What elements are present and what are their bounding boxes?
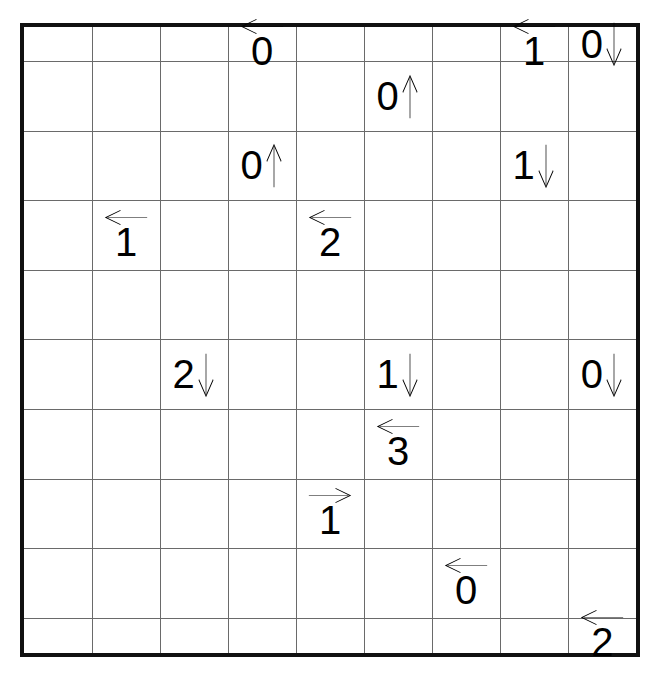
clue-number: 0 bbox=[240, 146, 262, 185]
grid-cell-empty[interactable] bbox=[24, 410, 92, 480]
grid-cell-empty[interactable] bbox=[500, 479, 568, 549]
grid-cell-clue[interactable]: 1 bbox=[92, 201, 160, 271]
grid-cell-empty[interactable] bbox=[364, 618, 432, 653]
grid-cell-empty[interactable] bbox=[296, 62, 364, 132]
grid-cell-empty[interactable] bbox=[160, 201, 228, 271]
grid-cell-clue[interactable]: 0 bbox=[228, 27, 296, 62]
grid-cell-empty[interactable] bbox=[568, 201, 636, 271]
grid-cell-empty[interactable] bbox=[160, 131, 228, 201]
grid-cell-empty[interactable] bbox=[432, 618, 500, 653]
grid-cell-empty[interactable] bbox=[500, 618, 568, 653]
grid-cell-empty[interactable] bbox=[92, 410, 160, 480]
grid-cell-empty[interactable] bbox=[24, 549, 92, 619]
grid-cell-empty[interactable] bbox=[364, 549, 432, 619]
grid-cell-empty[interactable] bbox=[500, 549, 568, 619]
grid-cell-clue[interactable]: 0 bbox=[228, 131, 296, 201]
grid-cell-clue[interactable]: 0 bbox=[364, 62, 432, 132]
grid-cell-empty[interactable] bbox=[160, 410, 228, 480]
grid-cell-empty[interactable] bbox=[228, 549, 296, 619]
grid-cell-empty[interactable] bbox=[92, 618, 160, 653]
grid-cell-clue[interactable]: 2 bbox=[160, 340, 228, 410]
grid-cell-empty[interactable] bbox=[160, 618, 228, 653]
grid-cell-empty[interactable] bbox=[296, 549, 364, 619]
grid-cell-empty[interactable] bbox=[228, 479, 296, 549]
grid-cell-empty[interactable] bbox=[364, 479, 432, 549]
grid-cell-empty[interactable] bbox=[568, 410, 636, 480]
arrow-down-icon bbox=[604, 21, 624, 67]
clue-number: 1 bbox=[512, 146, 534, 185]
grid-cell-empty[interactable] bbox=[432, 27, 500, 62]
grid-cell-empty[interactable] bbox=[24, 618, 92, 653]
grid-cell-empty[interactable] bbox=[568, 270, 636, 340]
grid-cell-clue[interactable]: 1 bbox=[500, 131, 568, 201]
grid-cell-empty[interactable] bbox=[296, 27, 364, 62]
grid-cell-empty[interactable] bbox=[24, 131, 92, 201]
grid-cell-empty[interactable] bbox=[92, 270, 160, 340]
arrow-left-icon bbox=[443, 557, 489, 574]
grid-cell-empty[interactable] bbox=[432, 131, 500, 201]
clue: 1 bbox=[512, 143, 555, 189]
clue: 0 bbox=[443, 557, 489, 610]
grid-cell-empty[interactable] bbox=[92, 549, 160, 619]
grid-cell-empty[interactable] bbox=[24, 27, 92, 62]
grid-cell-empty[interactable] bbox=[92, 340, 160, 410]
grid-cell-empty[interactable] bbox=[364, 131, 432, 201]
arrow-down-icon bbox=[604, 352, 624, 398]
clue: 0 bbox=[581, 21, 624, 67]
grid-cell-empty[interactable] bbox=[296, 410, 364, 480]
grid-cell-empty[interactable] bbox=[432, 270, 500, 340]
grid-cell-empty[interactable] bbox=[24, 201, 92, 271]
grid-cell-empty[interactable] bbox=[92, 479, 160, 549]
grid-cell-empty[interactable] bbox=[500, 201, 568, 271]
grid-cell-empty[interactable] bbox=[432, 62, 500, 132]
grid-cell-empty[interactable] bbox=[92, 131, 160, 201]
grid-cell-empty[interactable] bbox=[228, 618, 296, 653]
grid-cell-clue[interactable]: 1 bbox=[500, 27, 568, 62]
grid-cell-empty[interactable] bbox=[296, 131, 364, 201]
grid-cell-empty[interactable] bbox=[500, 62, 568, 132]
grid-cell-empty[interactable] bbox=[92, 27, 160, 62]
grid-cell-empty[interactable] bbox=[364, 27, 432, 62]
grid-cell-empty[interactable] bbox=[160, 549, 228, 619]
grid-cell-empty[interactable] bbox=[228, 201, 296, 271]
grid-cell-empty[interactable] bbox=[24, 62, 92, 132]
grid-cell-empty[interactable] bbox=[228, 270, 296, 340]
grid-cell-empty[interactable] bbox=[160, 479, 228, 549]
grid-row: 010 bbox=[24, 27, 636, 62]
grid-cell-empty[interactable] bbox=[296, 270, 364, 340]
grid-cell-empty[interactable] bbox=[432, 479, 500, 549]
grid-cell-empty[interactable] bbox=[432, 340, 500, 410]
grid-cell-empty[interactable] bbox=[228, 410, 296, 480]
grid-cell-empty[interactable] bbox=[228, 62, 296, 132]
grid-cell-clue[interactable]: 2 bbox=[296, 201, 364, 271]
grid-cell-empty[interactable] bbox=[24, 270, 92, 340]
grid-cell-clue[interactable]: 2 bbox=[568, 618, 636, 653]
grid-cell-empty[interactable] bbox=[92, 62, 160, 132]
grid-cell-empty[interactable] bbox=[500, 270, 568, 340]
grid-cell-empty[interactable] bbox=[568, 131, 636, 201]
grid-cell-empty[interactable] bbox=[432, 201, 500, 271]
grid-cell-empty[interactable] bbox=[24, 479, 92, 549]
grid-cell-empty[interactable] bbox=[432, 410, 500, 480]
grid-cell-empty[interactable] bbox=[160, 62, 228, 132]
grid-cell-empty[interactable] bbox=[568, 62, 636, 132]
grid-cell-clue[interactable]: 1 bbox=[296, 479, 364, 549]
grid-cell-empty[interactable] bbox=[364, 201, 432, 271]
grid-cell-clue[interactable]: 0 bbox=[568, 27, 636, 62]
grid-cell-empty[interactable] bbox=[228, 340, 296, 410]
grid-cell-empty[interactable] bbox=[568, 549, 636, 619]
grid-cell-clue[interactable]: 0 bbox=[568, 340, 636, 410]
grid-cell-empty[interactable] bbox=[500, 340, 568, 410]
grid-cell-clue[interactable]: 0 bbox=[432, 549, 500, 619]
grid-cell-empty[interactable] bbox=[296, 340, 364, 410]
grid-cell-clue[interactable]: 1 bbox=[364, 340, 432, 410]
grid-cell-empty[interactable] bbox=[296, 618, 364, 653]
grid-cell-empty[interactable] bbox=[160, 27, 228, 62]
grid-cell-empty[interactable] bbox=[24, 340, 92, 410]
clue: 0 bbox=[376, 74, 419, 120]
grid-cell-clue[interactable]: 3 bbox=[364, 410, 432, 480]
grid-cell-empty[interactable] bbox=[364, 270, 432, 340]
grid-cell-empty[interactable] bbox=[500, 410, 568, 480]
grid-cell-empty[interactable] bbox=[568, 479, 636, 549]
grid-cell-empty[interactable] bbox=[160, 270, 228, 340]
